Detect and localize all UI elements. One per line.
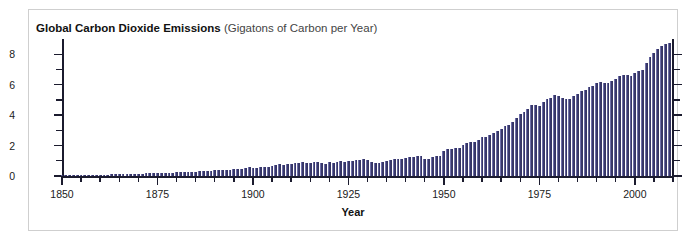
bar	[584, 90, 587, 176]
bar	[122, 174, 125, 176]
bar	[156, 173, 159, 176]
bar	[530, 105, 533, 176]
bar	[160, 173, 163, 176]
x-tick-major	[443, 177, 444, 185]
bar	[397, 159, 400, 176]
x-tick-minor	[481, 177, 482, 182]
bar	[484, 137, 487, 176]
bar	[599, 82, 602, 176]
bar	[217, 170, 220, 176]
bar	[232, 169, 235, 176]
bar	[374, 163, 377, 176]
bar	[274, 165, 277, 176]
y-tick-minor-right	[674, 160, 680, 161]
y-tick-major	[54, 145, 62, 146]
bar	[278, 164, 281, 176]
bar	[580, 91, 583, 176]
x-tick-major	[252, 177, 253, 185]
figure-panel: Global Carbon Dioxide Emissions (Gigaton…	[28, 9, 678, 231]
y-tick-label: 6	[0, 79, 15, 91]
bar	[145, 173, 148, 176]
bar	[76, 175, 79, 176]
bar	[240, 169, 243, 176]
bar	[496, 131, 499, 177]
bar	[301, 162, 304, 176]
bar	[576, 94, 579, 176]
bar	[103, 175, 106, 176]
y-tick-label: 2	[0, 140, 15, 152]
bar	[347, 161, 350, 176]
bar	[259, 167, 262, 176]
y-tick-major-right	[674, 54, 682, 55]
x-tick-minor	[653, 177, 654, 182]
bar	[526, 109, 529, 176]
x-tick-minor	[290, 177, 291, 182]
x-tick-major	[61, 177, 62, 185]
x-tick-minor	[558, 177, 559, 182]
bar	[626, 75, 629, 176]
x-tick-minor	[500, 177, 501, 182]
y-tick-label: 8	[0, 48, 15, 60]
bar	[206, 171, 209, 176]
bar	[355, 160, 358, 176]
bar	[183, 172, 186, 176]
bar	[263, 167, 266, 176]
bar	[358, 160, 361, 176]
bar	[439, 156, 442, 176]
x-tick-minor	[367, 177, 368, 182]
bar	[61, 175, 64, 176]
bar	[538, 106, 541, 176]
bar	[656, 49, 659, 176]
x-tick-minor	[99, 177, 100, 182]
bar	[313, 162, 316, 176]
bar	[668, 43, 671, 176]
bar	[324, 164, 327, 176]
bar	[519, 114, 522, 176]
bar	[477, 140, 480, 176]
bar	[622, 75, 625, 176]
bar	[515, 118, 518, 176]
bar	[595, 83, 598, 176]
bar	[511, 122, 514, 176]
x-tick-major	[157, 177, 158, 185]
bar	[210, 171, 213, 176]
bar	[427, 159, 430, 176]
bar	[660, 46, 663, 176]
bar	[225, 170, 228, 176]
bar	[297, 163, 300, 176]
bar	[381, 162, 384, 176]
bar	[565, 99, 568, 176]
bar	[64, 175, 67, 176]
bar	[294, 163, 297, 176]
x-tick-minor	[310, 177, 311, 182]
bar	[332, 163, 335, 176]
bar	[168, 173, 171, 176]
x-tick-minor	[424, 177, 425, 182]
x-tick-major	[539, 177, 540, 185]
bar	[633, 73, 636, 176]
bar	[507, 125, 510, 176]
bar	[378, 163, 381, 176]
chart-title-main: Global Carbon Dioxide Emissions	[36, 22, 221, 34]
y-tick-minor-right	[674, 69, 680, 70]
y-tick-major-right	[674, 175, 682, 176]
x-tick-minor	[462, 177, 463, 182]
bar	[118, 174, 121, 176]
bar	[221, 170, 224, 176]
bar	[588, 87, 591, 176]
bar	[462, 145, 465, 176]
bar	[286, 164, 289, 176]
bar	[572, 96, 575, 176]
y-tick-major-right	[674, 114, 682, 115]
bar	[252, 168, 255, 176]
y-tick-minor-right	[674, 99, 680, 100]
bar	[400, 159, 403, 176]
bar	[87, 175, 90, 176]
chart-title-subtitle: (Gigatons of Carbon per Year)	[224, 22, 377, 34]
bar	[607, 83, 610, 176]
bar	[446, 149, 449, 176]
x-tick-minor	[80, 177, 81, 182]
y-tick-major-right	[674, 145, 682, 146]
bar	[110, 174, 113, 176]
x-tick-label: 1925	[337, 188, 360, 200]
